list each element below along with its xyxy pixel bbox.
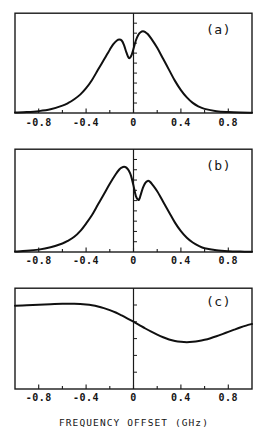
tick-label: -0.4 [73, 255, 99, 266]
panel-b-label: (b) [206, 158, 231, 173]
tick-label: -0.4 [73, 392, 99, 403]
tick-label: -0.8 [26, 117, 52, 128]
x-axis-title: FREQUENCY OFFSET (GHz) [0, 417, 268, 428]
panel-b: -0.8-0.400.40.8 (b) [0, 148, 268, 254]
tick-label: 0.8 [219, 117, 239, 128]
figure-container: -0.8-0.400.40.8 (a) -0.8-0.400.40.8 (b) … [0, 0, 268, 443]
tick-label: 0 [130, 117, 137, 128]
tick-label: 0 [130, 255, 137, 266]
panel-c-label: (c) [206, 294, 231, 309]
panel-c-tick-labels: -0.8-0.400.40.8 [0, 391, 268, 405]
tick-label: 0.8 [219, 392, 239, 403]
panel-c: -0.8-0.400.40.8 (c) [0, 287, 268, 391]
tick-label: 0.8 [219, 255, 239, 266]
tick-label: 0 [130, 392, 137, 403]
panel-a: -0.8-0.400.40.8 (a) [0, 12, 268, 116]
panel-a-tick-labels: -0.8-0.400.40.8 [0, 116, 268, 130]
panel-a-label: (a) [206, 22, 231, 37]
tick-label: 0.4 [171, 392, 191, 403]
tick-label: -0.8 [26, 392, 52, 403]
panel-b-tick-labels: -0.8-0.400.40.8 [0, 254, 268, 268]
tick-label: 0.4 [171, 255, 191, 266]
tick-label: 0.4 [171, 117, 191, 128]
tick-label: -0.4 [73, 117, 99, 128]
tick-label: -0.8 [26, 255, 52, 266]
